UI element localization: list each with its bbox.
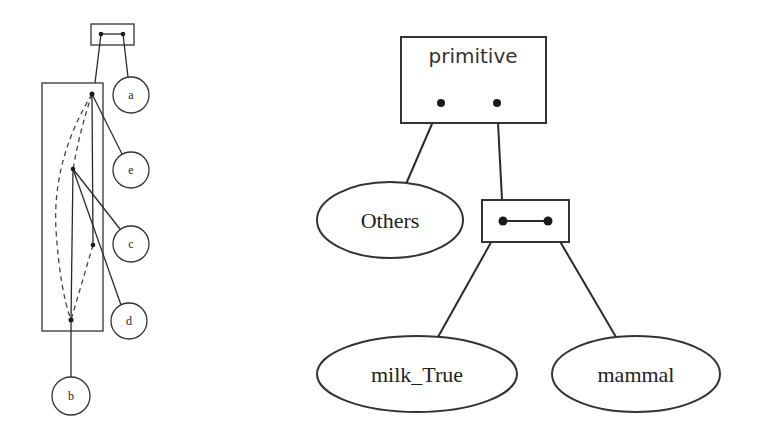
junction-dot — [499, 217, 508, 226]
right-diagram: primitive Others milk_True mammal — [317, 37, 720, 412]
primitive-label: primitive — [428, 44, 517, 68]
dashed-lower-to-bottom — [71, 245, 93, 320]
node-label: e — [128, 163, 133, 177]
junction-dot — [99, 32, 104, 37]
junction-dot — [90, 92, 95, 97]
left-diagram: a e c d b — [42, 24, 149, 415]
node-e[interactable]: e — [113, 152, 149, 188]
node-label: b — [68, 389, 74, 403]
node-mammal[interactable]: mammal — [552, 336, 720, 412]
node-d[interactable]: d — [111, 303, 147, 339]
node-milk-true[interactable]: milk_True — [317, 336, 517, 412]
primitive-box[interactable]: primitive — [401, 37, 546, 123]
junction-dot — [121, 32, 126, 37]
node-b[interactable]: b — [52, 377, 90, 415]
node-a[interactable]: a — [113, 77, 149, 113]
junction-dot — [71, 167, 76, 172]
node-label: a — [128, 88, 134, 102]
dashed-top-to-mid — [73, 94, 92, 169]
junction-dot — [91, 243, 96, 248]
edge-mid-dot-vertical — [71, 169, 73, 320]
node-label: mammal — [598, 362, 675, 387]
node-label: d — [126, 314, 132, 328]
diagram-canvas: a e c d b primitive — [0, 0, 757, 435]
junction-dot — [493, 99, 501, 107]
node-label: c — [128, 237, 133, 251]
junction-dot — [69, 318, 74, 323]
node-label: milk_True — [371, 362, 463, 387]
node-label: Others — [361, 208, 420, 233]
junction-dot — [544, 217, 553, 226]
edge-mid-dot-to-c — [73, 169, 120, 229]
node-c[interactable]: c — [113, 226, 149, 262]
node-others[interactable]: Others — [317, 182, 463, 258]
edge-top-to-a — [123, 34, 128, 77]
junction-dot — [437, 99, 445, 107]
edge-top-to-rect — [95, 34, 101, 83]
